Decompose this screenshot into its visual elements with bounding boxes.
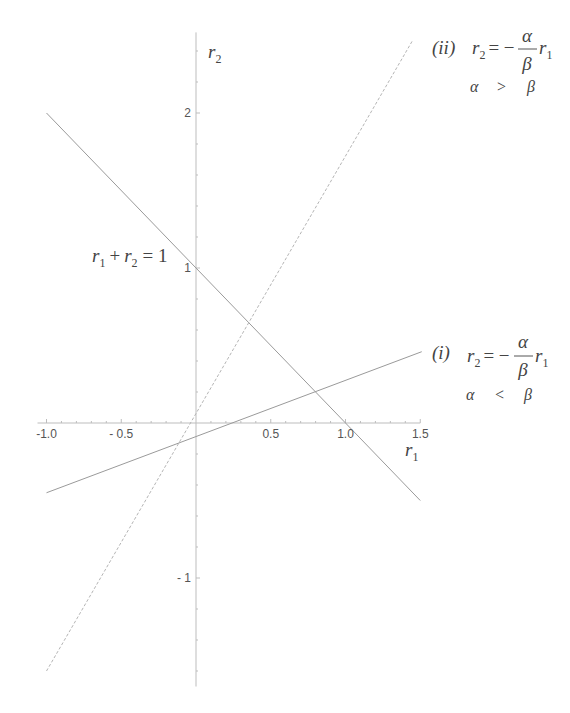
y-tick-label: - 1	[177, 571, 191, 585]
tick-labels: -1.0- 0.50.51.01.521- 1	[36, 106, 429, 585]
line-i	[47, 352, 422, 493]
line-i-tag: (i)	[432, 342, 450, 364]
line-i-numerator: α	[518, 331, 529, 352]
chart: -1.0- 0.50.51.01.521- 1 r2 r1 r1+r2= 1 (…	[0, 0, 570, 713]
sum-line	[47, 113, 421, 501]
line-i-cond-a: α	[466, 386, 475, 403]
line-i-denominator: β	[517, 359, 528, 380]
y-tick-label: 1	[184, 261, 191, 275]
line-i-cond-b: β	[523, 386, 532, 404]
x-tick-label: -1.0	[36, 427, 57, 441]
x-axis-label: r1	[405, 439, 418, 464]
line-ii-numerator: α	[522, 25, 533, 46]
x-tick-label: - 0.5	[109, 427, 133, 441]
y-tick-label: 2	[184, 106, 191, 120]
series-group	[47, 40, 422, 671]
line-ii-equation: (ii) r2= − α β r1 α > β	[432, 25, 552, 96]
line-ii-cond-op: >	[497, 78, 506, 95]
line-ii-rhs: r1	[539, 37, 552, 62]
line-i-lhs: r2= −	[467, 345, 510, 370]
line-i-rhs: r1	[535, 345, 548, 370]
line-ii-lhs: r2= −	[472, 37, 515, 62]
line-ii-cond-b: β	[526, 78, 535, 96]
line-ii-denominator: β	[521, 53, 532, 74]
y-axis-label: r2	[208, 41, 221, 66]
line-ii-tag: (ii)	[432, 37, 455, 59]
line-ii	[47, 40, 413, 671]
line-ii-cond-a: α	[470, 78, 479, 95]
sum-line-label: r1+r2= 1	[92, 245, 168, 270]
x-tick-label: 1.0	[337, 427, 354, 441]
line-i-equation: (i) r2= − α β r1 α < β	[432, 331, 548, 404]
x-tick-label: 0.5	[262, 427, 279, 441]
line-i-cond-op: <	[495, 386, 504, 403]
x-tick-label: 1.5	[412, 427, 429, 441]
